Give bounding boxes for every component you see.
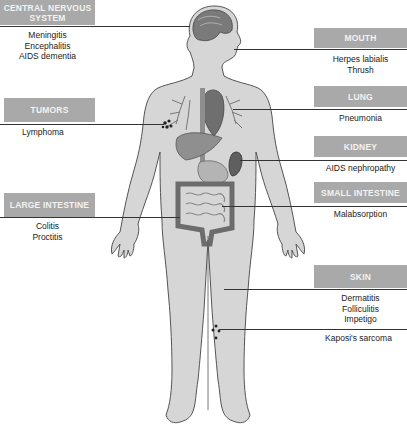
condition-aids-nephropathy: AIDS nephropathy xyxy=(314,163,407,174)
label-kidney: KIDNEY xyxy=(314,136,407,157)
condition-kaposis-sarcoma: Kaposi's sarcoma xyxy=(310,333,407,344)
leader-line-mouth xyxy=(234,49,407,50)
leader-line-kaposi xyxy=(219,329,407,330)
leader-line-tumors xyxy=(0,124,164,125)
label-central-nervous-system: CENTRAL NERVOUSSYSTEM xyxy=(0,0,95,25)
esophagus-icon xyxy=(200,88,205,172)
leader-line-large-intestine xyxy=(0,217,180,218)
condition-encephalitis: Encephalitis xyxy=(0,41,95,52)
condition-colitis: Colitis xyxy=(0,221,95,232)
condition-folliculitis: Folliculitis xyxy=(314,304,407,315)
leader-line-cns xyxy=(0,26,190,27)
condition-herpes-labialis: Herpes labialis xyxy=(314,54,407,65)
condition-pneumonia: Pneumonia xyxy=(314,113,407,124)
condition-lymphoma: Lymphoma xyxy=(22,127,64,138)
label-skin: SKIN xyxy=(314,265,407,288)
label-mouth: MOUTH xyxy=(314,28,407,48)
conditions-mouth: Herpes labialis Thrush xyxy=(314,54,407,75)
condition-impetigo: Impetigo xyxy=(314,314,407,325)
label-large-intestine: LARGE INTESTINE xyxy=(4,193,95,217)
condition-proctitis: Proctitis xyxy=(0,232,95,243)
condition-thrush: Thrush xyxy=(314,65,407,76)
conditions-small-intestine: Malabsorption xyxy=(314,209,407,220)
anatomy-diagram: CENTRAL NERVOUSSYSTEM Meningitis Encepha… xyxy=(0,0,407,432)
leader-line-lung xyxy=(233,109,407,110)
label-tumors: TUMORS xyxy=(4,98,95,122)
conditions-tumors: Lymphoma xyxy=(22,127,64,138)
conditions-large-intestine: Colitis Proctitis xyxy=(0,221,95,242)
conditions-lung: Pneumonia xyxy=(314,113,407,124)
conditions-kaposi: Kaposi's sarcoma xyxy=(310,333,407,344)
leader-line-kidney xyxy=(240,160,407,161)
leader-line-small-intestine xyxy=(222,206,407,207)
condition-malabsorption: Malabsorption xyxy=(314,209,407,220)
conditions-cns: Meningitis Encephalitis AIDS dementia xyxy=(0,30,95,62)
condition-aids-dementia: AIDS dementia xyxy=(0,51,95,62)
condition-meningitis: Meningitis xyxy=(0,30,95,41)
conditions-skin: Dermatitis Folliculitis Impetigo xyxy=(314,293,407,325)
leader-line-skin xyxy=(224,289,407,290)
condition-dermatitis: Dermatitis xyxy=(314,293,407,304)
label-small-intestine: SMALL INTESTINE xyxy=(314,182,407,203)
label-lung: LUNG xyxy=(314,86,407,107)
conditions-kidney: AIDS nephropathy xyxy=(314,163,407,174)
